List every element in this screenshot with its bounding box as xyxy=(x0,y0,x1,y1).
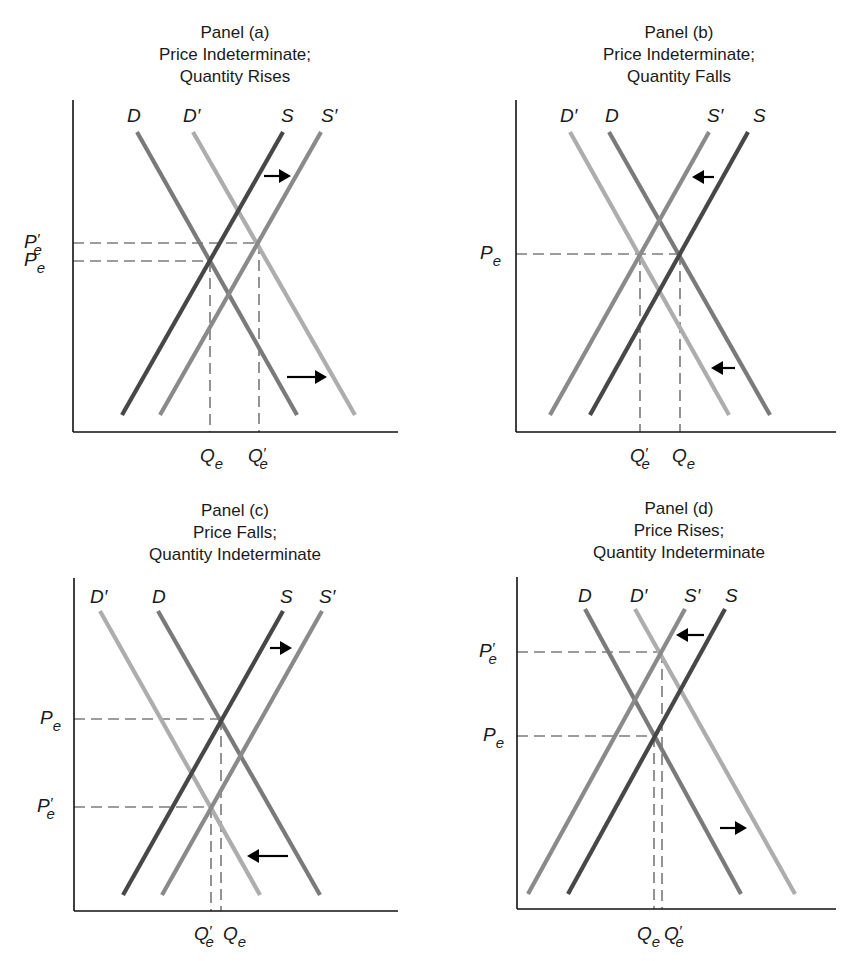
arrow-left-icon xyxy=(676,628,704,642)
curve-label: S xyxy=(725,585,738,606)
curve-label: D xyxy=(152,586,166,607)
price-label: Pe xyxy=(483,724,504,751)
curve-label: D′ xyxy=(90,586,109,607)
curve-label: S′ xyxy=(707,105,725,126)
curve-label: D′ xyxy=(630,585,649,606)
arrow-right-icon xyxy=(264,169,291,183)
quantity-label: Q′e xyxy=(630,444,650,472)
curve-supply-shifted xyxy=(550,132,709,415)
panel-a: DD′SS′P′ePeQeQ′e xyxy=(24,100,398,472)
curve-label: S′ xyxy=(321,105,339,126)
curve-label: D xyxy=(127,105,141,126)
curve-demand xyxy=(609,132,770,415)
panel-b: D′DS′SPeQ′eQe xyxy=(480,100,836,472)
plot-canvas: DD′SS′P′ePeQeQ′eD′DS′SPeQ′eQeD′DSS′PeP′e… xyxy=(0,0,866,961)
price-label: Pe xyxy=(40,707,61,734)
curve-label: D xyxy=(578,585,592,606)
curve-demand-shifted xyxy=(570,132,729,415)
curve-label: S′ xyxy=(684,585,702,606)
price-label: Pe xyxy=(24,249,45,276)
quantity-label: Qe xyxy=(637,923,660,950)
panel-d: DD′S′SP′ePeQeQ′e xyxy=(479,577,836,950)
arrow-left-icon xyxy=(247,849,288,863)
arrow-right-icon xyxy=(287,370,327,384)
quantity-label: Qe xyxy=(200,445,223,472)
curve-supply xyxy=(590,132,748,415)
arrow-left-icon xyxy=(692,170,714,184)
curve-label: D xyxy=(605,105,619,126)
curve-label: S xyxy=(281,105,294,126)
curve-demand-shifted xyxy=(635,609,795,894)
curve-label: S′ xyxy=(319,586,337,607)
arrow-right-icon xyxy=(270,641,292,655)
quantity-label: Qe xyxy=(672,445,695,472)
price-label: P′e xyxy=(479,639,497,667)
price-label: P′e xyxy=(37,794,55,822)
panel-c: D′DSS′PeP′eQ′eQe xyxy=(37,578,398,950)
curve-label: D′ xyxy=(183,105,202,126)
curve-label: S xyxy=(280,586,293,607)
quantity-label: Q′e xyxy=(248,444,268,472)
quantity-label: Q′e xyxy=(664,922,684,950)
quantity-label: Q′e xyxy=(194,922,214,950)
curve-label: D′ xyxy=(560,105,579,126)
curve-supply-shifted xyxy=(160,132,321,415)
price-label: Pe xyxy=(480,242,501,269)
arrow-right-icon xyxy=(720,821,747,835)
curve-label: S xyxy=(753,105,766,126)
supply-demand-figure: Panel (a)Price Indeterminate;Quantity Ri… xyxy=(0,0,866,961)
quantity-label: Qe xyxy=(223,923,246,950)
arrow-left-icon xyxy=(711,361,735,375)
